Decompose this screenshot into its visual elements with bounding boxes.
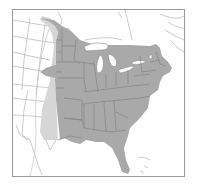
range-map <box>0 0 199 187</box>
map-canvas <box>0 0 199 187</box>
